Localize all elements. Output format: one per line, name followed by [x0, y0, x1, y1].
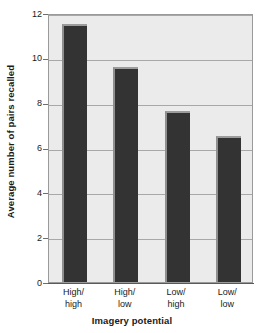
x-axis-line	[48, 283, 254, 284]
bar	[165, 111, 190, 282]
x-axis-tick-label-line: low	[99, 299, 150, 311]
y-axis-tick-label: 2	[22, 234, 42, 243]
x-axis-title: Imagery potential	[0, 315, 264, 326]
x-axis-tick-label-line: high	[151, 299, 202, 311]
y-axis-tick-label: 10	[22, 54, 42, 63]
x-axis-tick-label: Low/high	[151, 287, 202, 310]
y-axis-tick-label: 12	[22, 10, 42, 19]
x-axis-tick-labels: High/highHigh/lowLow/highLow/low	[48, 287, 253, 317]
x-axis-tick-label: Low/low	[202, 287, 253, 310]
plot-area	[48, 14, 253, 283]
y-axis-tick-labels: 024681012	[20, 0, 42, 333]
x-axis-tick-label-line: high	[48, 299, 99, 311]
bar	[216, 136, 241, 282]
y-axis-tick-label: 4	[22, 189, 42, 198]
x-axis-tick-label: High/low	[99, 287, 150, 310]
bar	[113, 67, 138, 282]
x-axis-tick-label-line: High/	[48, 287, 99, 299]
bar	[62, 24, 87, 282]
y-axis-tick-label: 0	[22, 279, 42, 288]
y-axis-tick-label: 8	[22, 99, 42, 108]
x-axis-tick-label: High/high	[48, 287, 99, 310]
x-axis-tick-label-line: High/	[99, 287, 150, 299]
x-axis-tick-label-line: low	[202, 299, 253, 311]
x-axis-tick-label-line: Low/	[151, 287, 202, 299]
y-axis-tick-label: 6	[22, 144, 42, 153]
x-axis-tick-label-line: Low/	[202, 287, 253, 299]
bar-chart: Average number of pairs recalled 0246810…	[0, 0, 264, 333]
y-axis-title: Average number of pairs recalled	[3, 0, 19, 283]
gridline	[49, 15, 252, 16]
